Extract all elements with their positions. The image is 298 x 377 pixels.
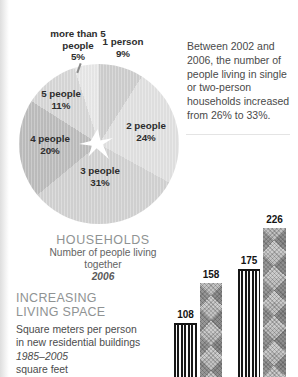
- bar-value-label: 108: [177, 309, 194, 320]
- annotation-text: Between 2002 and 2006, the number of peo…: [187, 40, 295, 123]
- bar-title-line2: LIVING SPACE: [16, 305, 166, 319]
- pie-caption: HOUSEHOLDS Number of people living toget…: [28, 233, 178, 283]
- pie-label-name: 2 people: [126, 120, 166, 132]
- bar-title-line1: INCREASING: [16, 291, 166, 305]
- pie-label-2-people: 2 people 24%: [126, 120, 166, 143]
- pie-subtitle-line2: together: [28, 259, 178, 271]
- bar-subtitle-line1: Square meters per person: [16, 323, 166, 336]
- pie-label-name: 4 people: [30, 133, 70, 145]
- page-edge-shadow: [0, 0, 9, 377]
- pie-label-more-than-5: more than 5 people 5%: [48, 28, 108, 63]
- starburst-icon: [79, 129, 113, 159]
- divider-line: [186, 134, 290, 135]
- bar-value-label: 158: [203, 269, 220, 280]
- pie-label-name: 5 people: [41, 88, 81, 100]
- pie-year: 2006: [28, 271, 178, 283]
- bar-period: 1985–2005: [16, 350, 166, 363]
- pie-label-pct: 9%: [103, 48, 144, 60]
- pie-label-pct: 20%: [30, 145, 70, 157]
- bar-group: 108: [174, 323, 197, 377]
- bar-striped: [238, 269, 260, 377]
- pie-label-4-people: 4 people 20%: [30, 133, 70, 156]
- infographic-page: 1 person 9% 2 people 24% 3 people 31% 4 …: [0, 0, 298, 377]
- bar-striped: [174, 323, 197, 377]
- bar-diamond-pattern: [200, 283, 222, 377]
- pie-label-pct: 5%: [48, 51, 108, 63]
- bar-caption: INCREASING LIVING SPACE Square meters pe…: [16, 291, 166, 376]
- bar-unit: square feet: [16, 363, 166, 376]
- pie-title: HOUSEHOLDS: [28, 233, 178, 247]
- pie-label-pct: 31%: [80, 177, 120, 189]
- pie-label-pct: 24%: [126, 132, 166, 144]
- pie-label-1-person: 1 person 9%: [103, 36, 144, 59]
- bar-group: 175: [238, 269, 260, 377]
- pie-label-5-people: 5 people 11%: [41, 88, 81, 111]
- bar-subtitle-line2: in new residential buildings: [16, 336, 166, 349]
- bar-value-label: 175: [241, 255, 258, 266]
- pie-label-name: more than 5 people: [48, 28, 108, 51]
- bar-diamond-pattern: [263, 228, 286, 377]
- bar-value-label: 226: [266, 214, 283, 225]
- pie-label-name: 1 person: [103, 36, 144, 48]
- bar-group: 158: [200, 283, 222, 377]
- pie-subtitle-line1: Number of people living: [28, 247, 178, 259]
- pie-label-3-people: 3 people 31%: [80, 165, 120, 188]
- bar-group: 226: [263, 228, 286, 377]
- pie-label-name: 3 people: [80, 165, 120, 177]
- pie-label-pct: 11%: [41, 100, 81, 112]
